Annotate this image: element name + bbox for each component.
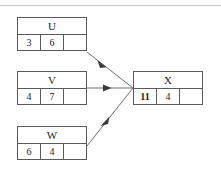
node-u[interactable]: U 3 6 <box>17 17 87 51</box>
edge-u-to-x-arrowhead <box>98 60 107 68</box>
node-v-cell-0: 4 <box>18 89 41 105</box>
node-v-cells: 4 7 <box>18 89 86 105</box>
node-v-label: V <box>18 72 86 89</box>
node-u-cell-2 <box>64 35 86 51</box>
node-v-cell-2 <box>64 89 86 105</box>
edge-u-to-x <box>87 52 133 88</box>
node-w-label: W <box>18 127 86 144</box>
node-w-cell-0: 6 <box>18 144 41 160</box>
node-u-cell-1: 6 <box>41 35 64 51</box>
node-w-cell-2 <box>64 144 86 160</box>
node-x[interactable]: X 11 4 <box>133 71 203 105</box>
edge-w-to-x-arrowhead <box>101 117 110 127</box>
edge-v-to-x-arrowhead <box>103 85 112 92</box>
node-u-label: U <box>18 18 86 35</box>
node-u-cell-0: 3 <box>18 35 41 51</box>
diagram-canvas: U 3 6 V 4 7 W 6 4 X 11 4 <box>0 0 221 182</box>
node-u-cells: 3 6 <box>18 35 86 51</box>
node-v-cell-1: 7 <box>41 89 64 105</box>
edge-w-to-x <box>87 88 133 146</box>
node-x-cells: 11 4 <box>134 89 202 105</box>
node-x-cell-0: 11 <box>134 89 157 105</box>
node-x-cell-1: 4 <box>157 89 180 105</box>
node-v[interactable]: V 4 7 <box>17 71 87 105</box>
node-w-cells: 6 4 <box>18 144 86 160</box>
node-x-cell-2 <box>180 89 202 105</box>
node-x-label: X <box>134 72 202 89</box>
node-w-cell-1: 4 <box>41 144 64 160</box>
node-w[interactable]: W 6 4 <box>17 126 87 160</box>
